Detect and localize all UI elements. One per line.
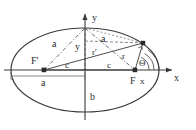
label-a-baseline: a [41,77,46,88]
label-focus-right: F [130,75,136,86]
segment-a-horizontal-dashed [85,41,143,43]
label-c-left: c [65,60,69,70]
label-c-right: c [107,60,111,70]
ellipse-diagram: y x a a y r' r F' F x c c a b Θ [0,0,196,130]
focus-left-marker [42,68,47,73]
label-abscissa-x: x [140,76,145,86]
label-theta: Θ [139,58,146,68]
label-b: b [90,91,95,102]
measure-a-baseline [11,72,85,80]
ellipse-figure-svg: y x a a y r' r F' F x c c a b Θ [0,0,196,130]
label-r: r [122,51,125,61]
label-y-ordinate: y [75,41,80,52]
right-angle-tick [138,47,142,50]
label-r-prime: r' [92,47,97,57]
x-axis-label: x [174,72,179,83]
label-a-upper-left: a [52,38,57,49]
point-on-ellipse-marker [141,41,145,45]
focus-right-marker [133,68,138,73]
y-axis-label: y [92,12,97,23]
label-focus-left: F' [31,55,39,66]
label-a-upper-right: a [101,33,106,44]
